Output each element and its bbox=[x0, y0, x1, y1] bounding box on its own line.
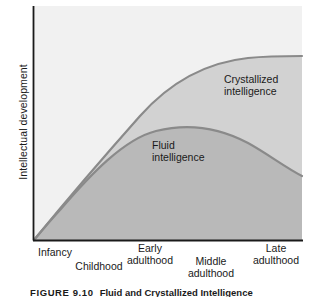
figure-caption-title: Fluid and Crystallized Intelligence bbox=[100, 287, 253, 297]
figure-caption: FIGURE 9.10Fluid and Crystallized Intell… bbox=[30, 287, 253, 297]
x-axis-label-infancy: Infancy bbox=[26, 247, 84, 259]
figure-caption-number: FIGURE 9.10 bbox=[30, 287, 94, 297]
figure-fluid-crystallized-intelligence: Intellectual development Crystallized in… bbox=[0, 0, 310, 297]
x-axis-label-middle-adulthood: Middle adulthood bbox=[180, 256, 242, 280]
series-label-crystallized: Crystallized intelligence bbox=[224, 74, 278, 98]
series-label-fluid-line2: intelligence bbox=[152, 152, 205, 164]
x-axis-label-early-adulthood: Early adulthood bbox=[117, 243, 183, 267]
x-axis-label-late-adulthood: Late adulthood bbox=[243, 243, 309, 267]
x-axis-label-late-line2: adulthood bbox=[243, 255, 309, 267]
series-label-fluid: Fluid intelligence bbox=[152, 140, 205, 164]
x-axis-label-middle-line2: adulthood bbox=[180, 268, 242, 280]
x-axis-label-early-line2: adulthood bbox=[117, 255, 183, 267]
series-label-crystallized-line2: intelligence bbox=[224, 86, 278, 98]
